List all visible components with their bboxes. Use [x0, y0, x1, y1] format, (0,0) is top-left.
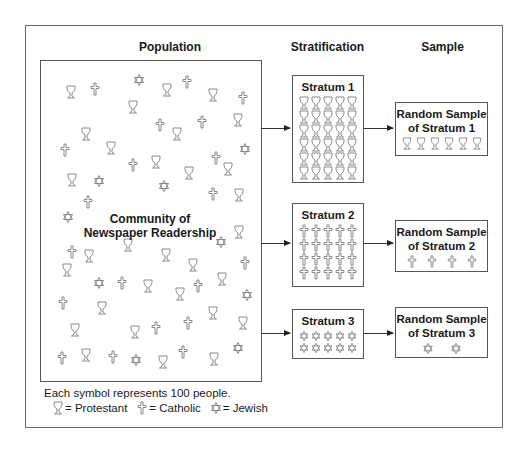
- sample-1-box: Random Sample of Stratum 1: [395, 102, 488, 156]
- cross-icon: [322, 266, 334, 280]
- goblet-icon: [298, 152, 310, 166]
- cross-icon: [116, 276, 128, 290]
- goblet-icon: [415, 137, 427, 150]
- cross-icon: [310, 224, 322, 238]
- cross-icon: [346, 238, 358, 252]
- goblet-icon: [429, 137, 441, 150]
- stratum-2-box: Stratum 2: [292, 203, 364, 287]
- cross-icon: [298, 238, 310, 252]
- cross-icon: [322, 224, 334, 238]
- cross-icon: [298, 266, 310, 280]
- sample-2-title-line2: of Stratum 2: [396, 239, 487, 253]
- goblet-icon: [346, 152, 358, 166]
- goblet-icon: [401, 137, 413, 150]
- arrow-stratum-3-to-sample-3: [364, 333, 393, 334]
- population-label-line2: Newspaper Readership: [60, 226, 240, 240]
- cross-icon: [127, 158, 139, 172]
- goblet-icon: [310, 138, 322, 152]
- star-of-david-icon: [93, 174, 105, 188]
- goblet-icon: [310, 166, 322, 180]
- goblet-icon: [187, 258, 199, 272]
- cross-icon: [154, 118, 166, 132]
- star-of-david-icon: [232, 341, 244, 355]
- star-of-david-icon: [334, 330, 346, 342]
- sample-2-title-line1: Random Sample: [396, 225, 487, 239]
- stratum-1-title: Stratum 1: [293, 80, 363, 94]
- cross-icon: [239, 256, 251, 270]
- stratum-1-box: Stratum 1: [292, 75, 364, 183]
- goblet-icon: [129, 325, 141, 339]
- goblet-icon: [65, 85, 77, 99]
- goblet-icon: [322, 138, 334, 152]
- cross-icon: [136, 401, 148, 415]
- goblet-icon: [443, 137, 455, 150]
- star-of-david-icon: [239, 142, 251, 156]
- goblet-icon: [334, 138, 346, 152]
- goblet-icon: [52, 401, 64, 415]
- stratum-2-title: Stratum 2: [293, 208, 363, 222]
- goblet-icon: [298, 96, 310, 110]
- goblet-icon: [61, 263, 73, 277]
- arrow-population-to-stratum-1: [262, 128, 290, 129]
- goblet-icon: [322, 152, 334, 166]
- goblet-icon: [105, 141, 117, 155]
- goblet-icon: [216, 272, 228, 286]
- goblet-icon: [174, 287, 186, 301]
- goblet-icon: [310, 96, 322, 110]
- legend-item-jewish: = Jewish: [210, 401, 268, 415]
- goblet-icon: [232, 113, 244, 127]
- goblet-icon: [457, 137, 469, 150]
- legend: = Protestant = Catholic = Jewish: [52, 401, 273, 415]
- cross-icon: [322, 252, 334, 266]
- header-population: Population: [120, 40, 220, 54]
- cross-icon: [82, 195, 94, 209]
- sample-1-title-line2: of Stratum 1: [396, 121, 487, 135]
- goblet-icon: [222, 162, 234, 176]
- goblet-icon: [334, 96, 346, 110]
- arrow-stratum-2-to-sample-2: [364, 243, 393, 244]
- sample-2-symbols: [396, 255, 487, 268]
- cross-icon: [406, 255, 418, 268]
- star-of-david-icon: [310, 342, 322, 354]
- stratum-2-symbols: [293, 224, 363, 280]
- cross-icon: [466, 255, 478, 268]
- cross-icon: [346, 252, 358, 266]
- goblet-icon: [161, 83, 173, 97]
- arrow-population-to-stratum-2: [262, 243, 290, 244]
- cross-icon: [177, 345, 189, 359]
- cross-icon: [57, 296, 69, 310]
- goblet-icon: [171, 127, 183, 141]
- goblet-icon: [298, 138, 310, 152]
- cross-icon: [66, 245, 78, 259]
- goblet-icon: [233, 188, 245, 202]
- goblet-icon: [346, 96, 358, 110]
- goblet-icon: [298, 110, 310, 124]
- goblet-icon: [471, 137, 483, 150]
- goblet-icon: [80, 348, 92, 362]
- cross-icon: [310, 252, 322, 266]
- legend-label-jewish: = Jewish: [223, 402, 268, 414]
- stratum-3-title: Stratum 3: [293, 314, 363, 328]
- star-of-david-icon: [422, 342, 434, 355]
- cross-icon: [334, 238, 346, 252]
- cross-icon: [334, 252, 346, 266]
- goblet-icon: [157, 355, 169, 369]
- sample-3-box: Random Sample of Stratum 3: [395, 307, 488, 358]
- goblet-icon: [66, 173, 78, 187]
- stratum-3-box: Stratum 3: [292, 309, 364, 359]
- legend-item-protestant: = Protestant: [52, 401, 127, 415]
- legend-label-protestant: = Protestant: [65, 402, 127, 414]
- goblet-icon: [334, 124, 346, 138]
- goblet-icon: [207, 306, 219, 320]
- arrow-stratum-1-to-sample-1: [364, 128, 393, 129]
- goblet-icon: [322, 110, 334, 124]
- goblet-icon: [150, 155, 162, 169]
- cross-icon: [56, 351, 68, 365]
- goblet-icon: [237, 316, 249, 330]
- star-of-david-icon: [322, 330, 334, 342]
- goblet-icon: [346, 138, 358, 152]
- goblet-icon: [310, 110, 322, 124]
- header-stratification: Stratification: [280, 40, 375, 54]
- cross-icon: [192, 279, 204, 293]
- cross-icon: [182, 316, 194, 330]
